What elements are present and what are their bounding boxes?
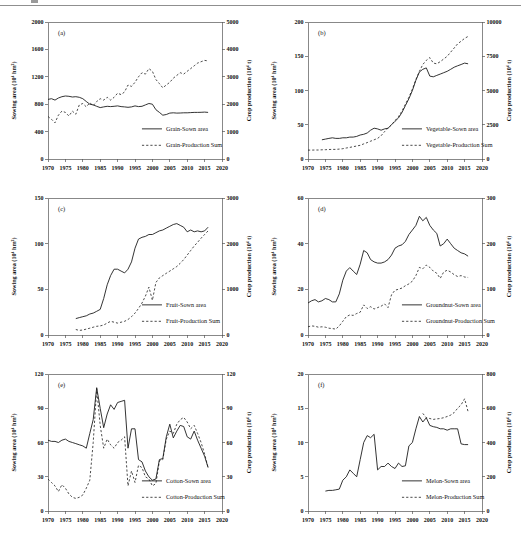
x-axis: 1970197519801985199019952000200520102015…: [302, 511, 488, 523]
svg-text:0: 0: [487, 332, 490, 338]
svg-text:1000: 1000: [227, 129, 239, 135]
right-axis: 010002000300040005000: [222, 19, 239, 162]
svg-text:2010: 2010: [441, 517, 453, 523]
svg-text:1980: 1980: [337, 517, 349, 523]
svg-text:1980: 1980: [77, 517, 89, 523]
svg-text:2005: 2005: [164, 165, 176, 171]
svg-text:2000: 2000: [227, 241, 239, 247]
svg-text:50: 50: [298, 122, 304, 128]
svg-text:2000: 2000: [406, 517, 418, 523]
svg-text:2015: 2015: [199, 517, 211, 523]
svg-text:1990: 1990: [112, 517, 124, 523]
legend: Cotton-Sown areaCotton-Production Sum: [142, 477, 225, 500]
legend-label: Grain-Sown area: [166, 125, 208, 132]
svg-text:150: 150: [35, 195, 44, 201]
svg-text:2000: 2000: [406, 165, 418, 171]
svg-text:1990: 1990: [112, 165, 124, 171]
svg-text:1970: 1970: [42, 165, 54, 171]
panel-f-melon-chart: 0510152002004006008001970197519801985199…: [260, 359, 520, 535]
legend-label: Vegetable-Production Sum: [426, 141, 493, 148]
plot-frame: [48, 198, 222, 335]
svg-text:60: 60: [227, 440, 233, 446]
svg-text:1995: 1995: [129, 341, 141, 347]
svg-text:1990: 1990: [372, 165, 384, 171]
panel-e-cotton-chart: 0306090120030609012019701975198019851990…: [0, 359, 260, 535]
svg-text:1985: 1985: [354, 517, 366, 523]
svg-text:0: 0: [487, 508, 490, 514]
svg-text:1985: 1985: [94, 341, 106, 347]
svg-text:2020: 2020: [476, 341, 488, 347]
plot-frame: [48, 22, 222, 159]
left-axis: 05101520: [298, 371, 309, 514]
svg-text:0: 0: [301, 156, 304, 162]
svg-text:2005: 2005: [164, 341, 176, 347]
right-axis-title: Crop production (10⁴ t): [505, 412, 513, 474]
svg-text:2000: 2000: [146, 165, 158, 171]
x-axis: 1970197519801985199019952000200520102015…: [42, 159, 228, 171]
svg-text:60: 60: [38, 440, 44, 446]
svg-text:30: 30: [38, 474, 44, 480]
svg-text:50: 50: [38, 286, 44, 292]
svg-text:1975: 1975: [59, 165, 71, 171]
svg-text:1990: 1990: [112, 341, 124, 347]
panel-letter: (f): [318, 381, 325, 389]
panel-d-groundnut-chart: 0204060010020030019701975198019851990199…: [260, 183, 520, 359]
svg-text:4000: 4000: [227, 46, 239, 52]
left-axis: 0204060: [298, 195, 309, 338]
x-axis: 1970197519801985199019952000200520102015…: [42, 511, 228, 523]
svg-text:1985: 1985: [94, 165, 106, 171]
svg-text:10: 10: [298, 440, 304, 446]
legend-label: Cotton-Production Sum: [166, 493, 225, 500]
left-axis-title: Sowing area (10⁴ hm²): [270, 61, 278, 119]
svg-text:40: 40: [298, 241, 304, 247]
series-production-sum: [308, 36, 468, 150]
left-axis-title: Sowing area (10⁴ hm²): [10, 237, 18, 295]
x-axis: 1970197519801985199019952000200520102015…: [302, 159, 488, 171]
right-axis-title: Crop production (10⁴ t): [245, 236, 253, 298]
svg-text:200: 200: [487, 474, 496, 480]
svg-text:1975: 1975: [319, 341, 331, 347]
legend-label: Melon-Production Sum: [426, 493, 484, 500]
svg-text:1995: 1995: [389, 341, 401, 347]
svg-text:2010: 2010: [181, 341, 193, 347]
svg-text:600: 600: [487, 405, 496, 411]
legend-label: Vegetable-Sown area: [426, 125, 479, 132]
series-production-sum: [76, 231, 208, 331]
svg-text:2015: 2015: [459, 165, 471, 171]
svg-text:1970: 1970: [302, 341, 314, 347]
svg-text:1980: 1980: [337, 341, 349, 347]
svg-text:1985: 1985: [94, 517, 106, 523]
svg-text:30: 30: [227, 474, 233, 480]
svg-text:2015: 2015: [459, 517, 471, 523]
svg-text:800: 800: [487, 371, 496, 377]
svg-text:150: 150: [295, 53, 304, 59]
svg-text:5000: 5000: [487, 88, 499, 94]
svg-text:1970: 1970: [302, 165, 314, 171]
x-axis: 1970197519801985199019952000200520102015…: [302, 335, 488, 347]
svg-text:1990: 1990: [372, 341, 384, 347]
svg-text:1985: 1985: [354, 341, 366, 347]
legend-label: Cotton-Sown area: [166, 477, 211, 484]
svg-text:15: 15: [298, 405, 304, 411]
svg-text:0: 0: [41, 332, 44, 338]
svg-text:1975: 1975: [59, 517, 71, 523]
legend-label: Groundnut-Sown area: [426, 301, 481, 308]
page-header-text-remnant: [31, 0, 38, 3]
series-production-sum: [48, 60, 208, 122]
svg-text:0: 0: [227, 332, 230, 338]
svg-text:2010: 2010: [441, 165, 453, 171]
svg-text:0: 0: [41, 508, 44, 514]
panel-letter: (e): [58, 381, 65, 389]
legend: Vegetable-Sown areaVegetable-Production …: [402, 125, 493, 148]
svg-text:3000: 3000: [227, 74, 239, 80]
left-axis-title: Sowing area (10⁴ hm²): [270, 413, 278, 471]
left-axis: 050100150: [35, 195, 49, 338]
svg-text:1970: 1970: [42, 341, 54, 347]
svg-text:1975: 1975: [319, 517, 331, 523]
svg-text:2015: 2015: [459, 341, 471, 347]
svg-text:90: 90: [38, 405, 44, 411]
svg-text:60: 60: [298, 195, 304, 201]
legend-label: Fruit-Production Sum: [166, 317, 220, 324]
right-axis-title: Crop production (10⁴ t): [245, 412, 253, 474]
series-sown-area: [308, 216, 468, 303]
